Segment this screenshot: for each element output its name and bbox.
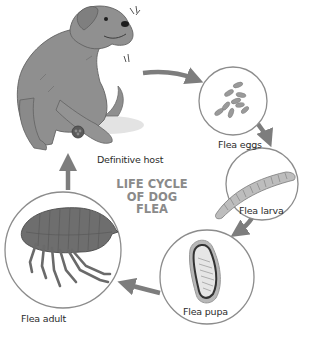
arrow-larva-to-pupa (238, 218, 252, 232)
dog-scratching-icon (17, 6, 144, 150)
label-flea-pupa: Flea pupa (183, 306, 228, 317)
flea-adult-icon (5, 192, 121, 308)
label-flea-adult: Flea adult (21, 313, 66, 324)
flea-life-cycle-diagram: Definitive host Flea eggs Flea larva Fle… (0, 0, 317, 337)
label-flea-eggs: Flea eggs (218, 139, 262, 150)
arrow-host-to-eggs (143, 72, 195, 79)
title-line-3: FLEA (112, 203, 192, 216)
label-definitive-host: Definitive host (97, 154, 163, 165)
flea-eggs-icon (199, 67, 267, 135)
title-line-1: LIFE CYCLE (112, 178, 192, 191)
diagram-graphics (0, 0, 317, 337)
label-flea-larva: Flea larva (239, 205, 284, 216)
arrow-eggs-to-larva (258, 124, 268, 139)
arrow-pupa-to-adult (126, 284, 160, 293)
diagram-title: LIFE CYCLE OF DOG FLEA (112, 178, 192, 216)
